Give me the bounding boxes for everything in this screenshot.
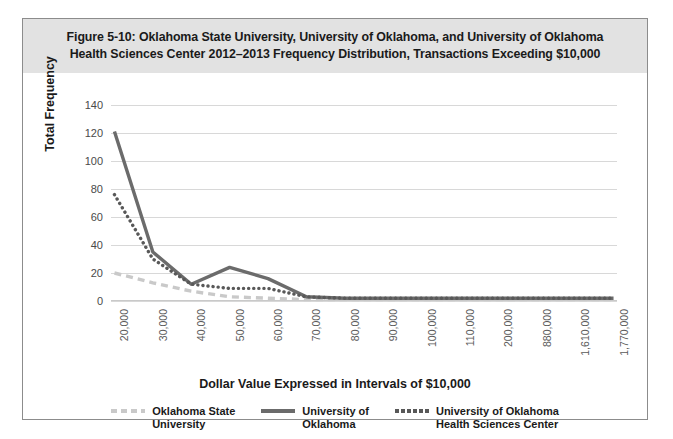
legend-item-0[interactable]: Oklahoma State University xyxy=(111,405,235,431)
series-line-2 xyxy=(114,195,613,299)
chart-plot-zone: Total Frequency 020406080100120140 20,00… xyxy=(23,73,647,421)
legend-swatch-icon-2 xyxy=(395,409,429,413)
y-axis-tick-80: 80 xyxy=(91,183,103,195)
legend-item-1[interactable]: University of Oklahoma xyxy=(261,405,369,431)
x-axis-tick-labels: 20,00030,00040,00050,00060,00070,00080,0… xyxy=(111,309,617,375)
y-axis-tick-0: 0 xyxy=(97,295,103,307)
legend-label-1: University of Oklahoma xyxy=(302,405,369,431)
x-axis-tick-40000: 40,000 xyxy=(195,309,207,341)
x-axis-tick-1610000: 1,610,000 xyxy=(579,309,591,356)
chart-plot-area xyxy=(111,105,617,301)
x-axis-title: Dollar Value Expressed in Intervals of $… xyxy=(23,377,647,391)
series-line-1 xyxy=(114,132,613,299)
chart-legend: Oklahoma State UniversityUniversity of O… xyxy=(23,405,647,431)
x-axis-tick-100000: 100,000 xyxy=(426,309,438,347)
y-axis-tick-120: 120 xyxy=(85,127,103,139)
y-axis-tick-labels: 020406080100120140 xyxy=(63,73,103,323)
x-axis-tick-880000: 880,000 xyxy=(541,309,553,347)
legend-item-2[interactable]: University of Oklahoma Health Sciences C… xyxy=(395,405,559,431)
figure-title-line-2: Health Sciences Center 2012–2013 Frequen… xyxy=(70,46,601,63)
figure-container: Figure 5-10: Oklahoma State University, … xyxy=(22,18,648,420)
x-axis-tick-200000: 200,000 xyxy=(502,309,514,347)
chart-series-layer xyxy=(111,105,617,301)
legend-swatch-icon-1 xyxy=(261,409,295,413)
x-axis-tick-30000: 30,000 xyxy=(157,309,169,341)
x-axis-tick-80000: 80,000 xyxy=(349,309,361,341)
x-axis-tick-90000: 90,000 xyxy=(387,309,399,341)
y-axis-tick-20: 20 xyxy=(91,267,103,279)
x-axis-tick-70000: 70,000 xyxy=(310,309,322,341)
y-axis-tick-140: 140 xyxy=(85,99,103,111)
figure-title-band: Figure 5-10: Oklahoma State University, … xyxy=(23,19,647,73)
legend-swatch-icon-0 xyxy=(111,409,145,413)
series-line-0 xyxy=(114,273,613,300)
x-axis-tick-50000: 50,000 xyxy=(234,309,246,341)
x-axis-tick-60000: 60,000 xyxy=(272,309,284,341)
legend-label-2: University of Oklahoma Health Sciences C… xyxy=(436,405,559,431)
y-axis-tick-60: 60 xyxy=(91,211,103,223)
y-axis-tick-100: 100 xyxy=(85,155,103,167)
y-axis-tick-40: 40 xyxy=(91,239,103,251)
legend-label-0: Oklahoma State University xyxy=(152,405,235,431)
x-axis-tick-1770000: 1,770,000 xyxy=(618,309,630,356)
x-axis-tick-110000: 110,000 xyxy=(464,309,476,346)
y-axis-title: Total Frequency xyxy=(43,39,57,169)
figure-title-line-1: Figure 5-10: Oklahoma State University, … xyxy=(67,29,604,46)
x-axis-tick-20000: 20,000 xyxy=(118,309,130,341)
